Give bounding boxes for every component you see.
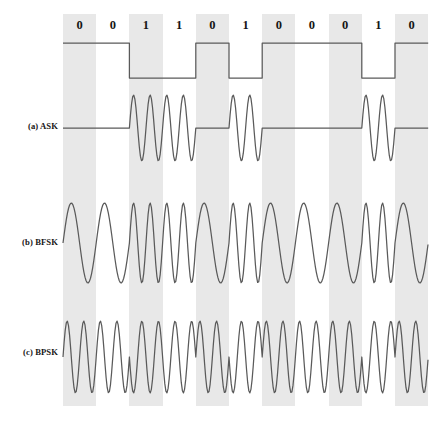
digital-signal-waveform	[63, 43, 428, 78]
waveform-canvas	[0, 0, 446, 427]
bfsk-waveform	[63, 203, 428, 283]
ask-waveform	[63, 95, 428, 161]
modulation-figure: 00110100010 (a) ASK (b) BFSK (c) BPSK	[0, 0, 446, 427]
bpsk-waveform	[63, 321, 428, 393]
